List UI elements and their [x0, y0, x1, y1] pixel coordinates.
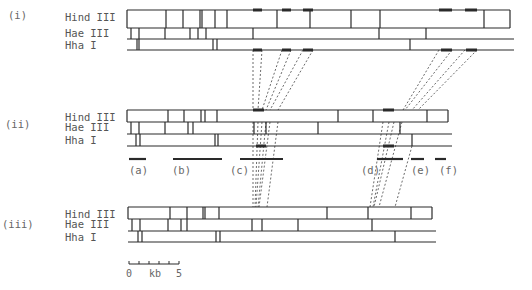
- enzyme-label: Hind III: [65, 11, 116, 23]
- dashed-connector: [403, 50, 439, 110]
- scale-bar: 0kb5: [126, 261, 182, 279]
- panel-label: (i): [8, 9, 27, 21]
- fragment-label: (f): [439, 164, 458, 176]
- fragment-label: (e): [411, 164, 430, 176]
- dashed-connector: [266, 50, 291, 110]
- fragment-label: (d): [361, 164, 380, 176]
- dashed-connector: [412, 50, 465, 110]
- enzyme-label: Hha I: [65, 134, 97, 146]
- panel-iii: (iii)Hind IIIHae IIIHha I: [2, 207, 436, 243]
- scale-label-unit: kb: [149, 268, 161, 279]
- dashed-connector: [379, 122, 402, 207]
- dashed-connector: [262, 50, 282, 110]
- fragment-markers: (a)(b)(c)(d)(e)(f): [129, 159, 458, 176]
- dashed-connector: [418, 50, 477, 110]
- dashed-connector: [258, 122, 266, 207]
- dashed-connector: [258, 50, 262, 110]
- enzyme-label: Hae III: [65, 218, 109, 230]
- enzyme-label: Hha I: [65, 39, 97, 51]
- scale-label-five: 5: [176, 268, 182, 279]
- panel-label: (ii): [5, 118, 30, 130]
- panel-i: (i)Hind IIIHae IIIHha I: [8, 9, 514, 51]
- dashed-connector: [278, 50, 313, 110]
- scale-label-zero: 0: [126, 268, 132, 279]
- dashed-connector: [270, 50, 303, 110]
- restriction-map-panels: (i)Hind IIIHae IIIHha I(ii)Hind IIIHae I…: [2, 9, 514, 243]
- dashed-connector: [395, 146, 412, 207]
- dashed-connector-lines: [253, 50, 477, 207]
- panel-ii: (ii)Hind IIIHae IIIHha I: [5, 110, 452, 146]
- fragment-label: (a): [129, 164, 148, 176]
- fragment-label: (b): [172, 164, 191, 176]
- enzyme-label: Hae III: [65, 27, 109, 39]
- panel-label: (iii): [2, 218, 34, 230]
- enzyme-label: Hha I: [65, 231, 97, 243]
- restriction-map-figure: (i)Hind IIIHae IIIHha I(ii)Hind IIIHae I…: [0, 0, 532, 290]
- fragment-label: (c): [230, 164, 249, 176]
- dashed-connector: [405, 50, 452, 110]
- enzyme-label: Hae III: [65, 121, 109, 133]
